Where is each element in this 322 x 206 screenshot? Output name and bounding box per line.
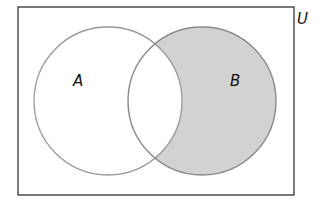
universe-label: U bbox=[297, 10, 308, 28]
venn-diagram: A B U bbox=[0, 0, 322, 206]
set-b-label: B bbox=[230, 72, 240, 90]
set-a-label: A bbox=[72, 72, 83, 90]
